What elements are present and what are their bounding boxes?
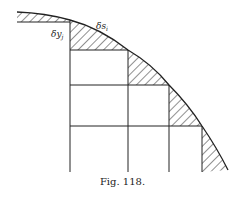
- hatched-region-top-left: [17, 12, 70, 22]
- figure-diagram: δsi δyj: [0, 0, 245, 199]
- hatched-region-2: [128, 50, 169, 85]
- hatched-region-3: [169, 85, 202, 126]
- label-delta-s: δsi: [96, 21, 108, 32]
- figure-caption: Fig. 118.: [0, 176, 245, 187]
- arc-curve: [17, 12, 228, 170]
- label-delta-y: δyj: [51, 29, 64, 41]
